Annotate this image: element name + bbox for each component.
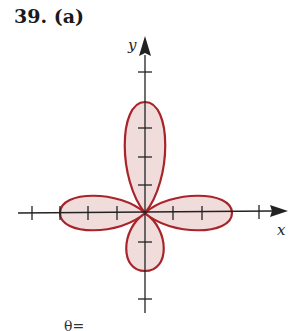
y-axis-label: y — [127, 36, 137, 54]
x-axis-label: x — [277, 221, 286, 239]
x-arrow-icon — [270, 205, 288, 217]
axes — [18, 55, 272, 313]
petal-right — [145, 196, 232, 231]
rose-curve-diagram: x y — [0, 0, 306, 331]
y-arrow-icon — [139, 36, 151, 56]
bottom-text: θ= — [64, 318, 84, 331]
